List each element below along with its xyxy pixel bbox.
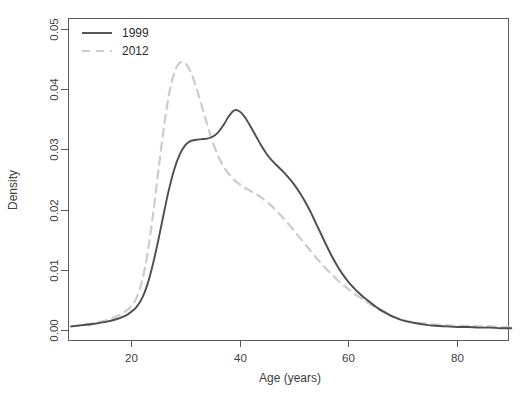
series-lines [71, 62, 511, 328]
y-axis-ticks: 0.000.010.020.030.040.05 [48, 18, 68, 341]
chart-legend: 19992012 [82, 26, 149, 58]
density-plot-figure: 20406080 0.000.010.020.030.040.05 199920… [0, 0, 523, 410]
x-tick-label-40: 40 [234, 352, 247, 364]
series-line-2012 [71, 62, 511, 327]
plot-frame [69, 19, 509, 341]
chart-canvas: 20406080 0.000.010.020.030.040.05 199920… [0, 0, 523, 410]
x-tick-label-60: 60 [342, 352, 355, 364]
y-tick-label-0.01: 0.01 [48, 259, 60, 281]
y-axis-label: Density [6, 170, 20, 210]
x-axis-ticks: 20406080 [125, 340, 464, 364]
y-tick-label-0.02: 0.02 [48, 199, 60, 221]
legend-label-1999: 1999 [122, 26, 149, 40]
y-tick-label-0.04: 0.04 [48, 78, 60, 101]
legend-label-2012: 2012 [122, 44, 149, 58]
y-tick-label-0.03: 0.03 [48, 138, 60, 160]
y-tick-label-0.05: 0.05 [48, 18, 60, 40]
x-tick-label-20: 20 [125, 352, 138, 364]
x-axis-label: Age (years) [259, 371, 321, 385]
x-tick-label-80: 80 [451, 352, 464, 364]
y-tick-label-0.00: 0.00 [48, 319, 60, 341]
